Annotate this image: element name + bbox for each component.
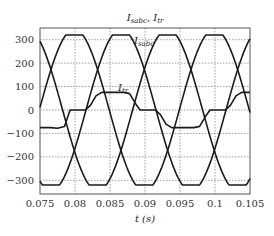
x-axis-ticks: 0.0750.080.0850.090.0950.10.105 (26, 198, 265, 209)
y-tick-label: 300 (15, 34, 34, 45)
y-tick-label: 0 (28, 105, 34, 116)
y-axis-ticks: 3002001000−100−200−300 (7, 34, 34, 186)
y-tick-label: −200 (7, 151, 34, 162)
grid-lines (40, 28, 250, 194)
x-tick-label: 0.075 (26, 198, 55, 209)
x-tick-label: 0.1 (207, 198, 223, 209)
x-tick-label: 0.085 (96, 198, 125, 209)
x-tick-label: 0.08 (64, 198, 86, 209)
x-axis-label: t (s) (135, 213, 155, 224)
x-tick-label: 0.095 (166, 198, 195, 209)
y-tick-label: −300 (7, 175, 34, 186)
chart: 3002001000−100−200−300 0.0750.080.0850.0… (0, 0, 274, 236)
chart-title: Isabc, Itr (126, 12, 164, 25)
data-curves (40, 35, 250, 185)
x-tick-label: 0.09 (134, 198, 156, 209)
y-tick-label: 200 (15, 58, 34, 69)
x-tick-label: 0.105 (236, 198, 265, 209)
y-tick-label: −100 (7, 128, 34, 139)
y-tick-label: 100 (15, 81, 34, 92)
